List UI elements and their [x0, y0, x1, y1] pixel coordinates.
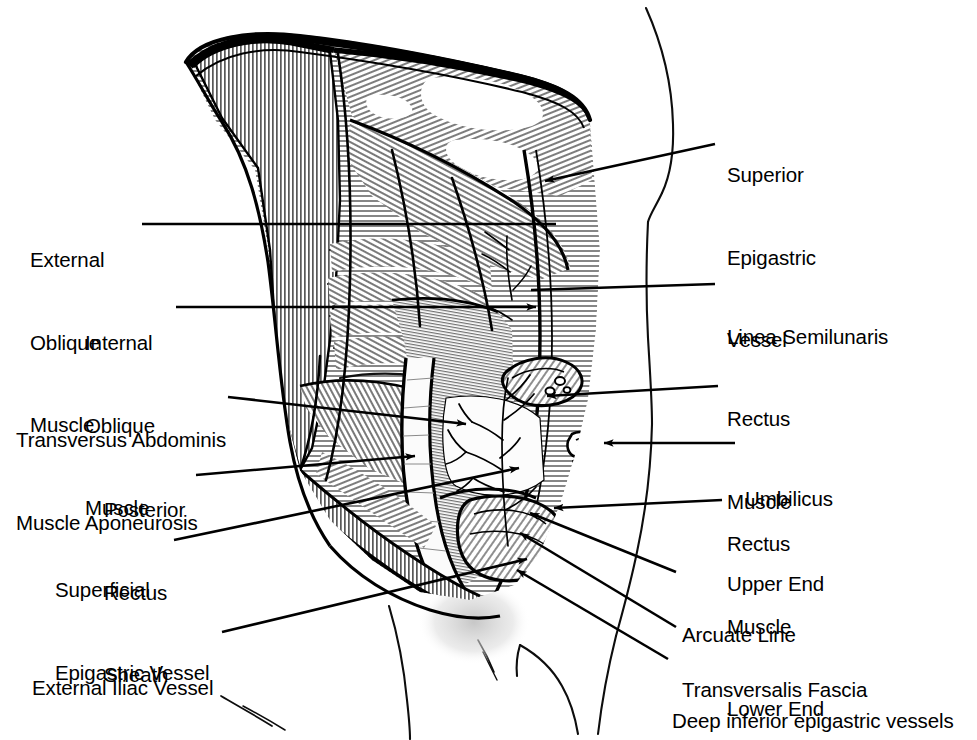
label-line: Superficial	[55, 576, 209, 604]
label-line: Linea Semilunaris	[727, 323, 888, 351]
label-line: Posterior	[104, 496, 185, 524]
label-line: Rectus	[727, 530, 824, 558]
leader-rectus-muscle-lower-end	[554, 500, 722, 508]
label-line: Deep inferior epigastric vessels	[672, 707, 954, 735]
label-line: External	[30, 246, 104, 274]
label-line: Internal	[85, 329, 155, 357]
leader-arcuate-line	[530, 513, 676, 572]
label-deep-inferior-epigastric-vessels: Deep inferior epigastric vessels	[672, 652, 954, 740]
label-line: Epigastric	[727, 244, 816, 272]
leader-transversalis-fascia	[520, 533, 676, 627]
label-line: Rectus	[727, 405, 824, 433]
label-line: Superior	[727, 161, 816, 189]
leader-deep-inferior-epigastric-vessels	[517, 570, 668, 659]
label-line: External Iliac Vessel	[32, 674, 213, 702]
label-external-iliac-vessel: External Iliac Vessel	[32, 619, 213, 740]
